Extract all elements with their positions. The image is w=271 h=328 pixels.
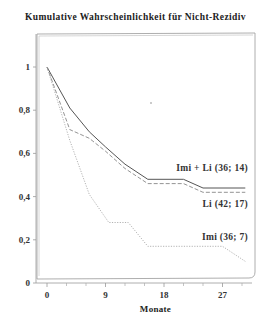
series-label-li: Li (42; 17) <box>202 199 248 210</box>
y-tick-label: 1 <box>26 62 31 72</box>
y-tick-label: 0,8 <box>19 105 31 115</box>
series-line <box>47 67 245 192</box>
x-tick-label: 0 <box>45 290 50 300</box>
x-tick-label: 18 <box>160 290 170 300</box>
y-tick-label: 0,4 <box>19 192 31 202</box>
y-tick-label: 0,6 <box>19 148 31 158</box>
y-ticks: 00,20,40,60,81 <box>19 62 36 288</box>
y-tick-label: 0,2 <box>19 235 31 245</box>
y-tick-label: 0 <box>26 278 31 288</box>
x-tick-label: 27 <box>218 290 228 300</box>
series-label-imi: Imi (36; 7) <box>202 232 248 243</box>
x-axis-label: Monate <box>0 304 271 314</box>
x-ticks: 091827 <box>45 283 242 300</box>
plot-frame <box>37 33 255 279</box>
chart-plot: 00,20,40,60,81 091827 Imi + Li (36; 14) … <box>0 0 271 328</box>
series-label-imi-li: Imi + Li (36; 14) <box>176 163 248 174</box>
x-tick-label: 9 <box>103 290 108 300</box>
stray-mark <box>150 102 152 104</box>
